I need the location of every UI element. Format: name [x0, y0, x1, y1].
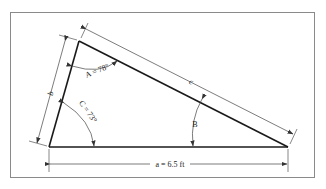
extension-line-b-bottom: [29, 141, 47, 146]
extension-line-c-top: [81, 23, 88, 38]
extension-line-b-top: [59, 35, 77, 40]
extension-line-c-bottom: [290, 129, 297, 144]
angle-C-label: C = 73°: [77, 99, 99, 125]
side-c-label: c: [188, 77, 196, 87]
triangle-diagram: b c a = 6.5 ft A = 78° C = 73° B: [0, 0, 326, 189]
side-b-label: b: [46, 90, 56, 96]
side-c: [79, 41, 288, 147]
angle-A-label: A = 78°: [84, 62, 111, 80]
figure-frame: [11, 13, 315, 178]
side-a-label: a = 6.5 ft: [156, 160, 186, 169]
angle-B-label: B: [192, 120, 197, 129]
